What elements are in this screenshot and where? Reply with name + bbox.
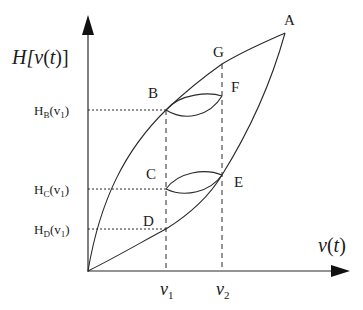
- v2-sub: 2: [224, 289, 230, 301]
- point-label-e: E: [234, 174, 243, 190]
- point-label-c: C: [146, 166, 156, 182]
- x-tick-v2: v2: [216, 279, 230, 301]
- y-label-v: v: [34, 46, 43, 68]
- v2-v: v: [216, 279, 224, 299]
- hc-arg: (v: [49, 182, 60, 197]
- y-axis-arrow-icon: [82, 15, 94, 35]
- hysteresis-diagram: H[v(t)] v(t) A G B F C E D HB(v1) HC(v1)…: [0, 0, 363, 310]
- v1-v: v: [160, 279, 168, 299]
- y-axis-label: H[v(t)]: [11, 46, 69, 69]
- hc-h: H: [34, 182, 43, 197]
- hb-arg-close: ): [65, 103, 69, 118]
- inner-loop-bf-upper: [166, 94, 222, 110]
- x-label-paren-close: ): [339, 234, 346, 257]
- hc-arg-close: ): [65, 182, 69, 197]
- axes: [88, 30, 336, 272]
- x-label-v: v: [318, 234, 327, 256]
- x-tick-v1: v1: [160, 279, 174, 301]
- y-tick-hb: HB(v1): [34, 103, 69, 120]
- hd-h: H: [34, 222, 43, 237]
- inner-loop-ce-lower: [166, 175, 222, 193]
- curves: [88, 33, 285, 271]
- point-label-a: A: [284, 12, 295, 28]
- v1-sub: 1: [168, 289, 174, 301]
- x-axis-label: v(t): [318, 234, 346, 257]
- point-label-b: B: [148, 85, 158, 101]
- y-label-paren-close: )]: [55, 46, 68, 69]
- hb-arg: (v: [49, 103, 60, 118]
- inner-loop-bf-lower: [166, 96, 222, 116]
- upper-envelope-curve: [88, 33, 285, 271]
- y-label-h: H[: [11, 46, 35, 68]
- point-label-g: G: [213, 44, 224, 60]
- y-tick-hc: HC(v1): [34, 182, 69, 199]
- point-label-f: F: [231, 79, 239, 95]
- hb-h: H: [34, 103, 43, 118]
- y-tick-hd: HD(v1): [34, 222, 70, 239]
- lower-envelope-curve: [88, 33, 285, 271]
- hd-arg: (v: [50, 222, 61, 237]
- point-label-d: D: [143, 213, 154, 229]
- x-axis-arrow-icon: [331, 265, 350, 277]
- hd-arg-close: ): [65, 222, 69, 237]
